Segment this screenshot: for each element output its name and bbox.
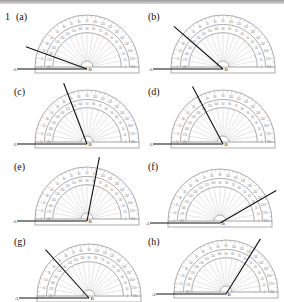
svg-text:180: 180 bbox=[48, 294, 53, 298]
svg-text:50: 50 bbox=[249, 261, 252, 265]
svg-text:140: 140 bbox=[55, 115, 60, 119]
svg-text:60: 60 bbox=[63, 100, 66, 104]
svg-text:180: 180 bbox=[131, 217, 136, 221]
svg-text:40: 40 bbox=[51, 36, 54, 40]
svg-text:120: 120 bbox=[66, 32, 71, 36]
point-b-label: B bbox=[225, 67, 229, 72]
svg-text:180: 180 bbox=[182, 65, 187, 69]
svg-text:60: 60 bbox=[107, 261, 110, 265]
protractor-panel: 1800170101602015030140401305012060110701… bbox=[15, 244, 141, 302]
svg-text:150: 150 bbox=[124, 194, 129, 198]
svg-text:70: 70 bbox=[99, 104, 102, 108]
svg-text:160: 160 bbox=[267, 274, 272, 278]
point-a-label: A bbox=[13, 219, 17, 224]
point-a-label: A bbox=[149, 142, 153, 147]
svg-text:50: 50 bbox=[243, 190, 246, 194]
svg-text:70: 70 bbox=[238, 254, 241, 258]
svg-text:80: 80 bbox=[231, 252, 234, 256]
svg-text:150: 150 bbox=[52, 121, 57, 125]
svg-text:120: 120 bbox=[66, 184, 71, 188]
svg-text:180: 180 bbox=[267, 140, 272, 144]
svg-text:100: 100 bbox=[214, 102, 219, 106]
svg-text:100: 100 bbox=[226, 174, 231, 178]
svg-text:80: 80 bbox=[78, 95, 81, 99]
svg-text:130: 130 bbox=[196, 111, 201, 115]
svg-text:140: 140 bbox=[188, 194, 193, 198]
point-b-label: B bbox=[89, 219, 93, 224]
svg-text:160: 160 bbox=[261, 203, 266, 207]
svg-text:160: 160 bbox=[130, 278, 135, 282]
svg-text:180: 180 bbox=[46, 140, 51, 144]
svg-text:90: 90 bbox=[86, 171, 89, 175]
svg-text:110: 110 bbox=[240, 247, 245, 251]
svg-text:130: 130 bbox=[62, 265, 67, 269]
svg-text:20: 20 bbox=[258, 52, 261, 56]
svg-text:40: 40 bbox=[251, 115, 254, 119]
svg-text:160: 160 bbox=[264, 124, 269, 128]
svg-text:170: 170 bbox=[186, 283, 191, 287]
svg-text:140: 140 bbox=[122, 265, 127, 269]
svg-text:110: 110 bbox=[101, 97, 106, 101]
svg-text:40: 40 bbox=[117, 269, 120, 273]
svg-text:140: 140 bbox=[55, 40, 60, 44]
svg-text:160: 160 bbox=[264, 49, 269, 53]
svg-text:180: 180 bbox=[131, 140, 136, 144]
svg-text:80: 80 bbox=[78, 20, 81, 24]
svg-text:40: 40 bbox=[115, 40, 118, 44]
point-b-label: B bbox=[228, 292, 232, 297]
svg-text:100: 100 bbox=[211, 181, 216, 185]
svg-text:110: 110 bbox=[208, 29, 213, 33]
svg-text:10: 10 bbox=[179, 282, 182, 286]
svg-text:120: 120 bbox=[244, 100, 249, 104]
svg-text:170: 170 bbox=[180, 212, 185, 216]
svg-text:30: 30 bbox=[185, 267, 188, 271]
svg-text:50: 50 bbox=[56, 105, 59, 109]
svg-text:90: 90 bbox=[225, 252, 228, 256]
svg-text:130: 130 bbox=[193, 190, 198, 194]
svg-text:110: 110 bbox=[234, 176, 239, 180]
svg-text:10: 10 bbox=[123, 210, 126, 214]
svg-text:40: 40 bbox=[184, 190, 187, 194]
protractor-panel: 1800170101602015030140401305012060110701… bbox=[152, 239, 278, 298]
svg-text:80: 80 bbox=[211, 174, 214, 178]
svg-text:120: 120 bbox=[244, 25, 249, 29]
svg-text:40: 40 bbox=[51, 188, 54, 192]
svg-text:30: 30 bbox=[119, 198, 122, 202]
svg-text:130: 130 bbox=[114, 30, 119, 34]
svg-text:50: 50 bbox=[56, 182, 59, 186]
svg-text:120: 120 bbox=[108, 25, 113, 29]
svg-text:90: 90 bbox=[88, 248, 91, 252]
svg-text:100: 100 bbox=[229, 20, 234, 24]
svg-text:170: 170 bbox=[183, 58, 188, 62]
svg-text:100: 100 bbox=[214, 27, 219, 31]
svg-text:60: 60 bbox=[196, 179, 199, 183]
svg-text:140: 140 bbox=[191, 115, 196, 119]
svg-text:20: 20 bbox=[179, 124, 182, 128]
svg-text:40: 40 bbox=[115, 115, 118, 119]
svg-text:90: 90 bbox=[86, 19, 89, 23]
svg-text:70: 70 bbox=[235, 29, 238, 33]
svg-text:60: 60 bbox=[65, 254, 68, 258]
svg-text:80: 80 bbox=[78, 172, 81, 176]
svg-text:10: 10 bbox=[123, 58, 126, 62]
svg-text:140: 140 bbox=[256, 36, 261, 40]
svg-text:60: 60 bbox=[105, 184, 108, 188]
svg-text:10: 10 bbox=[123, 133, 126, 137]
svg-text:100: 100 bbox=[93, 95, 98, 99]
svg-text:20: 20 bbox=[43, 124, 46, 128]
svg-text:120: 120 bbox=[68, 261, 73, 265]
svg-text:130: 130 bbox=[60, 111, 65, 115]
svg-text:30: 30 bbox=[255, 46, 258, 50]
svg-text:170: 170 bbox=[47, 133, 52, 137]
svg-text:80: 80 bbox=[92, 102, 95, 106]
svg-text:150: 150 bbox=[188, 46, 193, 50]
svg-text:100: 100 bbox=[93, 20, 98, 24]
svg-text:150: 150 bbox=[124, 42, 129, 46]
svg-text:70: 70 bbox=[203, 176, 206, 180]
protractor-panel: 1800170101602015030140401305012060110701… bbox=[149, 15, 275, 73]
svg-text:20: 20 bbox=[122, 127, 125, 131]
svg-text:100: 100 bbox=[232, 245, 237, 249]
svg-text:80: 80 bbox=[228, 27, 231, 31]
svg-text:30: 30 bbox=[46, 42, 49, 46]
svg-text:70: 70 bbox=[206, 97, 209, 101]
